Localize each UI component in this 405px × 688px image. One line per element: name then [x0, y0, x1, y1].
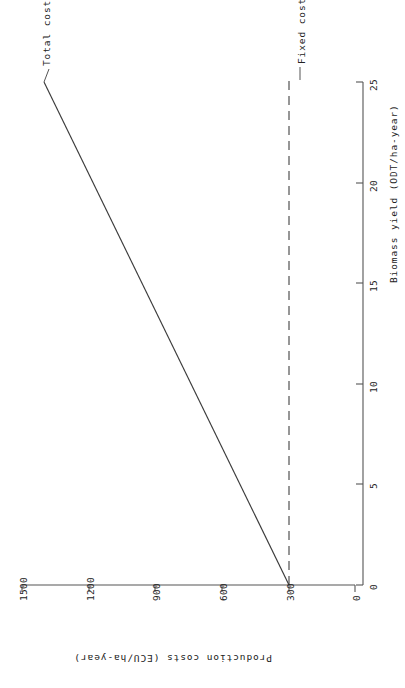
- x-tick-label-0: 0: [368, 584, 379, 590]
- x-tick-label-15: 15: [368, 280, 379, 292]
- y-tick-label-0: 0: [351, 595, 362, 601]
- x-tick-label-5: 5: [368, 483, 379, 489]
- production-costs-line-chart: 1500 1200 900 600 300 0 0 5 10 15 20 25 …: [0, 0, 405, 688]
- x-tick-label-25: 25: [368, 79, 379, 91]
- x-tick-label-20: 20: [368, 180, 379, 192]
- y-tick-label-600: 600: [218, 583, 229, 601]
- y-tick-label-300: 300: [285, 583, 296, 601]
- production-costs-axis-title: Production costs (ECU/ha-year): [73, 653, 272, 664]
- biomass-yield-axis-title: Biomass yield (ODT/ha-year): [388, 104, 399, 283]
- y-tick-label-900: 900: [151, 583, 162, 601]
- series-label-fixed-costs: Fixed costs: [296, 0, 307, 64]
- y-tick-label-1200: 1200: [85, 577, 96, 601]
- x-tick-label-10: 10: [368, 381, 379, 393]
- chart-figure: 1500 1200 900 600 300 0 0 5 10 15 20 25 …: [0, 0, 405, 688]
- series-label-total-costs: Total costs: [41, 0, 52, 66]
- y-tick-label-1500: 1500: [18, 577, 29, 601]
